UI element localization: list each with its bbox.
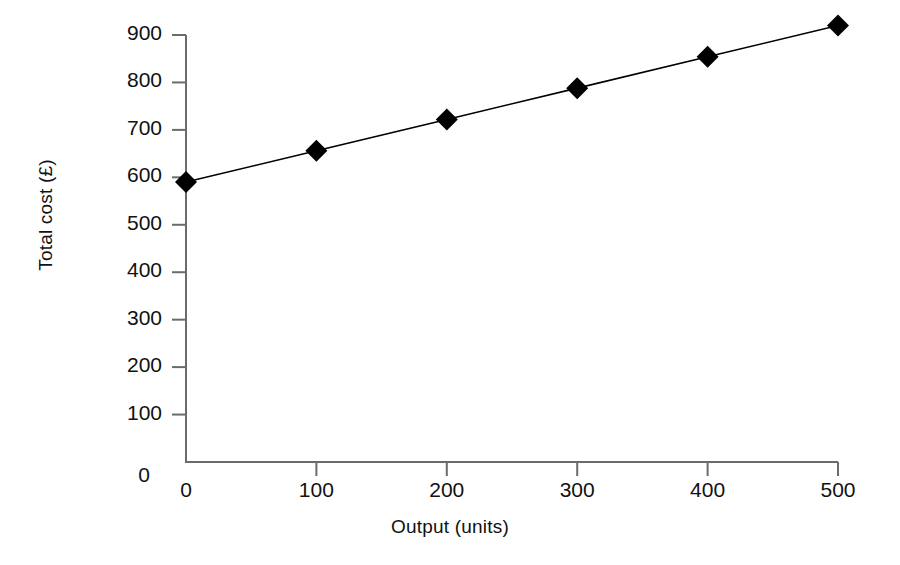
data-point-marker [175, 171, 197, 193]
chart-container: Total cost (£) Output (units) 0100200300… [0, 0, 900, 565]
axis-lines [186, 35, 838, 462]
data-point-marker [436, 108, 458, 130]
data-point-marker [697, 46, 719, 68]
data-point-marker [566, 77, 588, 99]
x-axis-ticks [316, 462, 838, 476]
y-axis-ticks [172, 35, 186, 415]
series-line-total-cost [186, 26, 838, 183]
data-point-marker [827, 15, 849, 37]
data-point-marker [305, 140, 327, 162]
plot-area [0, 0, 900, 565]
